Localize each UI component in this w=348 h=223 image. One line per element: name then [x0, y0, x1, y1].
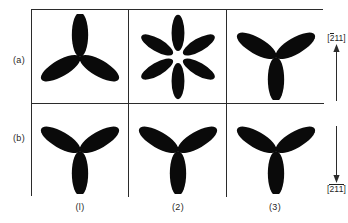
rosette-six-shape-a2	[135, 14, 221, 100]
panel-b3	[227, 104, 324, 197]
miller-bracket-close-top: ]	[343, 33, 345, 43]
column-label-1-text: (l)	[76, 202, 85, 212]
miller-bracket-close-bottom: ]	[344, 184, 346, 194]
row-label-a-text: (a)	[13, 55, 25, 65]
down-arrow-icon	[331, 125, 342, 183]
trefoil-down-shape-b2	[135, 108, 221, 194]
miller-index-bottom: [211]	[325, 184, 348, 194]
miller-index-top: [211]	[325, 33, 348, 43]
panel-grid	[31, 9, 323, 196]
trefoil-down-shape-b1	[37, 108, 123, 194]
column-label-3-text: (3)	[269, 202, 281, 212]
row-label-a: (a)	[6, 55, 32, 65]
row-label-b-text: (b)	[13, 133, 25, 143]
trefoil-up-shape-a1	[37, 14, 123, 100]
trefoil-down-shape-b3	[233, 108, 319, 194]
column-label-2-text: (2)	[172, 202, 184, 212]
up-arrow-icon	[331, 44, 342, 102]
direction-annotation-top: [211]	[325, 33, 348, 102]
row-label-b: (b)	[6, 133, 32, 143]
panel-b2	[129, 104, 227, 197]
panel-b1	[32, 104, 129, 197]
column-label-1: (l)	[31, 202, 129, 212]
figure-root: (a) (b)	[0, 0, 348, 223]
panel-a2	[129, 10, 227, 104]
panel-a1	[32, 10, 129, 104]
trefoil-down-shape-a3	[233, 14, 319, 100]
direction-annotation-bottom: [211]	[325, 125, 348, 194]
column-label-2: (2)	[129, 202, 227, 212]
panel-a3	[227, 10, 324, 104]
column-label-3: (3)	[226, 202, 324, 212]
